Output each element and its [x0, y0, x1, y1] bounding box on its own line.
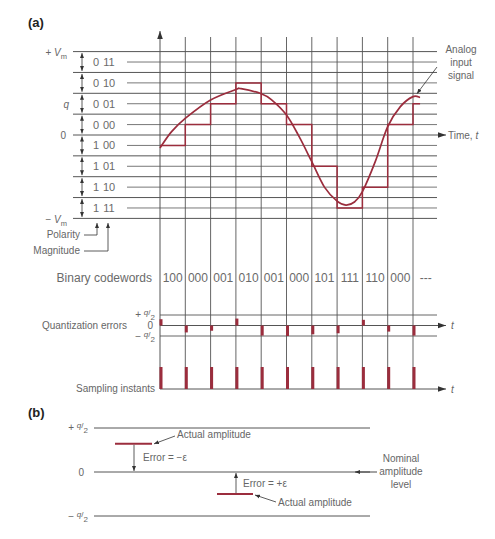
denominator: 2 [151, 335, 156, 344]
magnitude-bits: 00 [103, 139, 115, 151]
sampling-pulse [337, 367, 340, 389]
polarity-bit: 1 [93, 202, 99, 214]
codeword: 000 [390, 271, 410, 285]
vm-prefix: + [45, 47, 54, 58]
sampling-pulse [185, 367, 188, 389]
vm-subscript: m [61, 52, 67, 61]
negative-vm-label: − Vm [45, 214, 67, 228]
sampling-pulse [235, 367, 238, 389]
codeword: 000 [289, 271, 309, 285]
polarity-bit: 1 [93, 160, 99, 172]
quantization-error-bar [311, 326, 314, 335]
sampling-axis-var: t [451, 384, 455, 395]
polarity-bit: 0 [93, 56, 99, 68]
codeword: 000 [188, 271, 208, 285]
actual-amplitude-below-label: Actual amplitude [278, 497, 352, 508]
sampling-pulse [413, 367, 416, 389]
quantization-error-bar [286, 326, 289, 337]
error-lower-bound-label: − q/2 [135, 330, 155, 344]
negative-error-label: Error = −ε [143, 452, 187, 463]
actual-amplitude-below-pointer-icon [255, 495, 276, 502]
polarity-bit: 0 [93, 119, 99, 131]
actual-amplitude-above-pointer-icon [154, 436, 175, 444]
quantization-error-bar [387, 326, 390, 332]
quantization-error-bar [261, 326, 264, 336]
nominal-label-line3: level [391, 479, 412, 490]
b-zero-label: 0 [78, 467, 84, 478]
magnitude-pointer-arrow-icon [84, 223, 108, 251]
codeword: 100 [163, 271, 183, 285]
positive-error-label: Error = +ε [243, 478, 287, 489]
binary-codewords-label: Binary codewords [57, 271, 152, 285]
magnitude-bits: 11 [103, 56, 114, 68]
vm-prefix: − [45, 214, 54, 225]
nominal-label-line1: Nominal [383, 453, 420, 464]
polarity-bit: 0 [93, 98, 99, 110]
quantization-error-bar [413, 326, 416, 336]
time-axis-var: t [475, 130, 479, 141]
pcm-quantization-diagram: 0110100010001001011101111000000010100010… [0, 0, 495, 539]
magnitude-bits: 11 [103, 202, 114, 214]
analog-signal-label-line2: input [450, 57, 472, 68]
sampling-pulse [286, 367, 289, 389]
signal-pointer-arrow-icon [417, 67, 437, 94]
b-lower-bound-label: − q/2 [68, 510, 88, 524]
codeword: 101 [314, 271, 334, 285]
quantization-error-bar [337, 326, 340, 334]
b-upper-bound-label: + q/2 [68, 421, 88, 435]
positive-vm-label: + Vm [45, 47, 67, 61]
sampling-pulse [210, 367, 213, 389]
panel-b-label: (b) [28, 405, 45, 420]
sign: + [135, 309, 144, 320]
polarity-bit: 0 [93, 77, 99, 89]
sampling-pulse [387, 367, 390, 389]
error-axis-var: t [451, 320, 455, 331]
polarity-bit: 1 [93, 139, 99, 151]
sign: − [135, 331, 144, 342]
codeword: 110 [365, 271, 384, 285]
vm-subscript: m [61, 219, 67, 228]
time-axis-label: Time, t [448, 130, 479, 141]
codeword: 001 [264, 271, 284, 285]
actual-amplitude-above-label: Actual amplitude [177, 429, 251, 440]
magnitude-bits: 01 [103, 160, 115, 172]
sampling-pulse [261, 367, 264, 389]
analog-signal-label-line3: signal [448, 70, 474, 81]
step-size-label: q [63, 99, 69, 110]
denominator: 2 [84, 426, 89, 435]
zero-level-label: 0 [60, 130, 66, 141]
codeword: 010 [239, 271, 259, 285]
quantization-error-bar [235, 319, 238, 326]
generated-labels: 0110100010001001011101111000000010100010… [93, 56, 432, 285]
polarity-bit: 1 [93, 181, 99, 193]
sampling-instants-label: Sampling instants [76, 383, 155, 394]
sampling-pulse [311, 367, 314, 389]
magnitude-bits: 00 [103, 119, 115, 131]
sign: + [68, 422, 77, 433]
magnitude-bits: 10 [103, 77, 115, 89]
codeword: 111 [341, 271, 360, 285]
nominal-label-line2: amplitude [379, 466, 423, 477]
sampling-pulse [362, 367, 365, 389]
analog-signal-label-line1: Analog [445, 44, 476, 55]
denominator: 2 [84, 515, 89, 524]
magnitude-bits: 10 [103, 181, 115, 193]
polarity-label: Polarity [47, 229, 80, 240]
sign: − [68, 511, 77, 522]
magnitude-label: Magnitude [33, 245, 80, 256]
signal-layer [160, 83, 421, 389]
quantization-error-bar [362, 320, 365, 326]
quantization-errors-label: Quantization errors [42, 320, 127, 331]
grid-layer [73, 31, 446, 389]
time-axis-text: Time, [448, 130, 475, 141]
quantization-error-bar [210, 326, 213, 331]
sampling-pulse [160, 367, 163, 389]
quantization-error-bar [160, 319, 163, 325]
codeword: 001 [213, 271, 233, 285]
quantization-error-bar [185, 326, 188, 333]
magnitude-bits: 01 [103, 98, 115, 110]
panel-a-label: (a) [28, 15, 44, 30]
codeword: --- [420, 271, 432, 285]
polarity-pointer-arrow-icon [84, 223, 97, 235]
